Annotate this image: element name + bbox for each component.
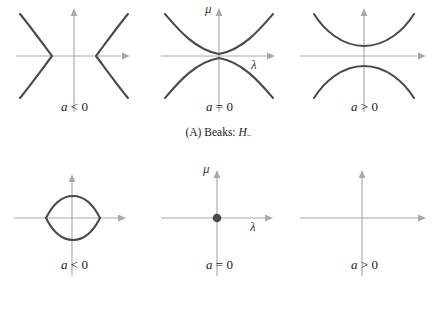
y-axis-arrowhead [71, 8, 78, 16]
x-axis-arrowhead [265, 215, 273, 222]
x-axis-arrowhead [418, 53, 426, 60]
axes [16, 8, 130, 112]
x-axis-arrowhead [267, 53, 275, 60]
condition-label-beaks-a-zero: a = 0 [147, 99, 292, 115]
condition-label-lips-a-positive: a > 0 [292, 257, 437, 273]
y-axis-arrowhead [214, 170, 221, 178]
condition-label-lips-a-negative: a < 0 [2, 257, 147, 273]
x-axis-label-lambda: λ [250, 220, 256, 233]
subcaption-subscript-beaks: − [247, 130, 252, 140]
subcaption-beaks: (A) Beaks: H− [0, 126, 437, 140]
figure-row-lips: a < 0 μ λ a = 0 [0, 158, 437, 298]
condition-label-lips-a-zero: a = 0 [147, 257, 292, 273]
y-axis-arrowhead [216, 8, 223, 16]
panel-beaks-a-positive: a > 0 [292, 0, 437, 120]
panel-beaks-a-zero: μ λ a = 0 [147, 0, 292, 120]
panel-lips-a-negative: a < 0 [2, 158, 147, 278]
panel-lips-a-zero: μ λ a = 0 [147, 158, 292, 278]
curve-lips-upper [46, 196, 100, 218]
panel-lips-a-positive: a > 0 [292, 158, 437, 278]
axes [161, 8, 275, 112]
figure-beaks-and-lips: a < 0 μ λ a = 0 [0, 0, 437, 315]
curve-lips-lower [46, 218, 100, 240]
x-axis-arrowhead [122, 53, 130, 60]
origin-point-dot [213, 214, 222, 223]
x-axis-arrowhead [118, 215, 126, 222]
y-axis-label-mu: μ [203, 162, 210, 175]
figure-row-beaks: a < 0 μ λ a = 0 [0, 0, 437, 140]
y-axis-label-mu: μ [205, 2, 212, 15]
subcaption-symbol-beaks: H [238, 126, 246, 138]
y-axis-arrowhead [359, 170, 366, 178]
y-axis-arrowhead [69, 174, 76, 182]
subcaption-name-beaks: Beaks: [204, 126, 235, 138]
subcaption-tag-beaks: (A) [185, 126, 201, 138]
panel-beaks-a-negative: a < 0 [2, 0, 147, 120]
x-axis-arrowhead [418, 215, 426, 222]
y-axis-arrowhead [361, 8, 368, 16]
x-axis-label-lambda: λ [251, 58, 257, 71]
condition-label-beaks-a-positive: a > 0 [292, 99, 437, 115]
condition-label-beaks-a-negative: a < 0 [2, 99, 147, 115]
